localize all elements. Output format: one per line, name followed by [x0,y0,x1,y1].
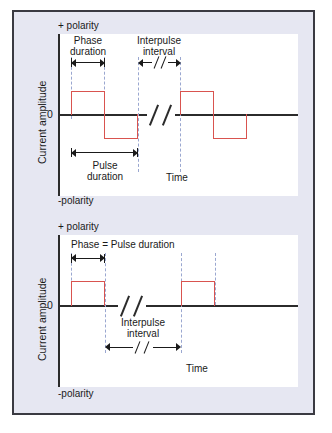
guide-line-phase-end-bottom [105,253,106,353]
interpulse-interval-arrow-top [138,58,181,67]
figure-frame: + polarity 0 Current amplitude [12,10,315,415]
interpulse-interval-label-line2-bottom: interval [114,328,172,340]
figure-root: + polarity 0 Current amplitude [0,0,332,433]
x-axis-title-top: Time [166,172,188,184]
top-polarity-label-bottom: + polarity [58,221,99,233]
interpulse-interval-label-line1-top: Interpulse [130,35,188,47]
panel-monophasic: + polarity 0 Current amplitude Phase = P… [14,213,313,414]
phase-equals-pulse-duration-arrow-bottom [71,254,105,263]
waveform-pulse1-bottom [71,281,105,306]
guide-line-pulse-end-top [138,57,139,172]
bottom-polarity-label-top: -polarity [58,195,94,207]
y-axis-title-bottom: Current amplitude [36,277,48,360]
phase-equals-pulse-duration-label-bottom: Phase = Pulse duration [71,239,175,251]
interpulse-interval-label-line1-bottom: Interpulse [114,317,172,329]
waveform-pulse2-bottom [181,281,215,306]
panel-biphasic: + polarity 0 Current amplitude [14,12,313,213]
phase-duration-arrow-top [71,58,105,67]
guide-line-next-pulse-end-bottom [215,253,216,305]
top-polarity-label-top: + polarity [58,20,99,32]
bottom-polarity-label-bottom: -polarity [58,388,94,400]
y-axis-bottom [58,235,60,387]
phase-duration-label-line2-top: duration [62,46,114,58]
waveform-phase1-positive-2-top [180,91,214,115]
x-axis-title-bottom: Time [186,363,208,375]
phase-duration-label-line1-top: Phase [64,35,112,47]
waveform-phase1-positive-top [71,91,105,115]
waveform-phase2-negative-top [104,114,138,139]
y-axis-title-top: Current amplitude [36,81,48,164]
waveform-phase2-negative-2-top [213,114,247,139]
pulse-duration-label-line1-top: Pulse [78,160,132,172]
pulse-duration-arrow-top [71,148,138,157]
interpulse-interval-arrow-bottom [105,343,181,352]
pulse-duration-label-line2-top: duration [76,171,134,183]
